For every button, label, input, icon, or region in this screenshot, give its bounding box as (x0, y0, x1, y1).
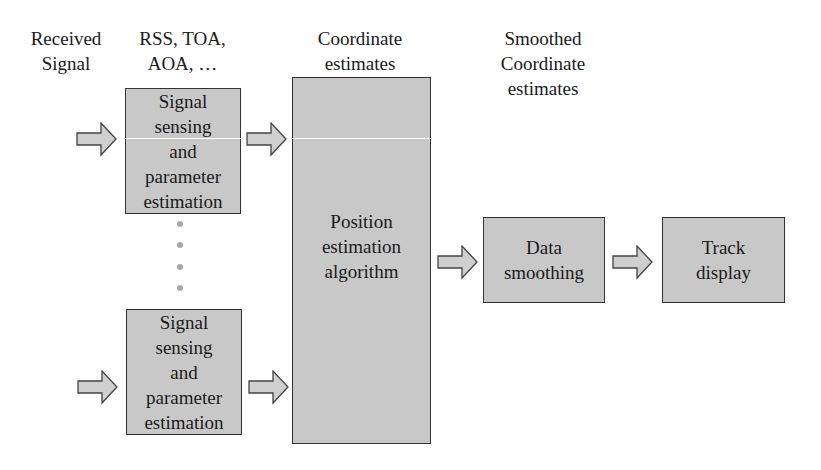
arrow-right-icon (246, 122, 288, 158)
block-text: Data (526, 235, 562, 260)
block-position-estimation: Position estimation algorithm (292, 77, 431, 444)
block-text: parameter (146, 385, 222, 410)
block-track-display: Track display (662, 217, 785, 303)
block-text: estimation (322, 234, 401, 259)
ellipsis-dot (177, 221, 183, 227)
arrow-right-icon (77, 370, 119, 406)
block-text: sensing (155, 114, 212, 139)
arrow-right-icon (248, 370, 290, 406)
label-smoothed-estimates: Smoothed Coordinate estimates (480, 26, 606, 101)
label-line: RSS, TOA, (125, 26, 240, 51)
ellipsis-dot (177, 242, 183, 248)
block-text: Track (702, 235, 746, 260)
arrow-right-icon (76, 122, 118, 158)
block-text: and (170, 360, 197, 385)
label-line: Coordinate (300, 26, 420, 51)
block-text: parameter (145, 164, 221, 189)
label-line: Signal (20, 51, 112, 76)
block-text: sensing (156, 335, 213, 360)
block-text: algorithm (325, 259, 399, 284)
label-line: AOA, … (125, 51, 240, 76)
label-received-signal: Received Signal (20, 26, 112, 76)
block-signal-sensing-top: Signal sensing and parameter estimation (125, 88, 241, 214)
label-line: Coordinate (480, 51, 606, 76)
block-text: display (696, 260, 751, 285)
block-text: Signal (160, 310, 209, 335)
arrow-right-icon (437, 245, 479, 281)
arrow-right-icon (612, 245, 654, 281)
label-coordinate-estimates: Coordinate estimates (300, 26, 420, 76)
label-line: Smoothed (480, 26, 606, 51)
block-text: estimation (144, 410, 223, 435)
block-signal-sensing-bottom: Signal sensing and parameter estimation (126, 309, 242, 435)
block-text: smoothing (504, 260, 584, 285)
block-text: Signal (159, 89, 208, 114)
label-line: estimates (300, 51, 420, 76)
label-line: estimates (480, 76, 606, 101)
label-line: Received (20, 26, 112, 51)
block-text: estimation (143, 189, 222, 214)
block-text: and (169, 139, 196, 164)
block-text: Position (330, 209, 392, 234)
ellipsis-dot (177, 285, 183, 291)
block-data-smoothing: Data smoothing (483, 217, 605, 303)
ellipsis-dot (177, 264, 183, 270)
label-parameters: RSS, TOA, AOA, … (125, 26, 240, 76)
